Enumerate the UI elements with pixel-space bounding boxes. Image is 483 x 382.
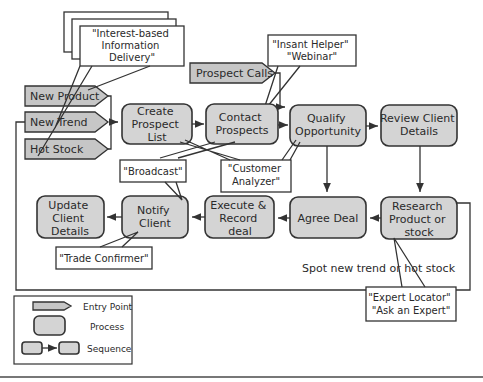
process-notify-client[interactable]: Notify Client — [122, 196, 188, 238]
svg-text:Agree Deal: Agree Deal — [298, 212, 359, 225]
svg-text:"Broadcast": "Broadcast" — [123, 166, 182, 177]
loop-label: Spot new trend or hot stock — [302, 262, 456, 275]
process-create-prospect-list[interactable]: Create Prospect List — [122, 104, 192, 144]
svg-text:Prospect Calls: Prospect Calls — [196, 67, 273, 80]
instant-helper-callout: "Insant Helper" "Webinar" — [265, 35, 356, 106]
svg-text:"Trade Confirmer": "Trade Confirmer" — [59, 253, 148, 264]
svg-text:Entry Point: Entry Point — [83, 302, 133, 312]
process-execute-record-deal[interactable]: Execute & Record deal — [205, 196, 274, 238]
entry-new-product[interactable]: New Product — [25, 86, 108, 106]
svg-text:Contact Prospects: Contact Prospects — [215, 111, 268, 137]
process-update-client-details[interactable]: Update Client Details — [37, 196, 104, 238]
process-review-client-details[interactable]: Review Client Details — [380, 105, 458, 146]
legend-sequence-icon — [22, 342, 42, 354]
legend-entry-icon — [33, 302, 71, 310]
process-qualify-opportunity[interactable]: Qualify Opportunity — [290, 105, 366, 146]
svg-text:Notify Client: Notify Client — [137, 204, 173, 230]
svg-text:Sequence: Sequence — [87, 344, 132, 354]
svg-text:Hot Stock: Hot Stock — [30, 143, 84, 156]
process-research-product[interactable]: Research Product or stock — [381, 197, 457, 239]
svg-text:Update Client Deta: Update Client Details — [48, 199, 91, 238]
entry-join-connector — [108, 96, 118, 149]
process-agree-deal[interactable]: Agree Deal — [290, 197, 366, 238]
legend: Entry Point Process Sequence — [14, 296, 133, 364]
broadcast-callout: "Broadcast" — [120, 142, 235, 200]
legend-process-icon — [34, 316, 65, 335]
svg-text:Process: Process — [90, 322, 124, 332]
expert-locator-callout: "Expert Locator" "Ask an Expert" — [366, 238, 456, 321]
entry-new-trend[interactable]: New Trend — [25, 112, 108, 132]
interest-based-callout: "Interest-based Information Delivery" — [64, 12, 184, 66]
svg-text:New Product: New Product — [30, 90, 100, 103]
process-contact-prospects[interactable]: Contact Prospects — [206, 104, 278, 144]
customer-analyzer-callout: "Customer Analyzer" — [180, 140, 300, 192]
flow-diagram: "Interest-based Information Delivery" Ne… — [0, 0, 483, 382]
entry-prospect-calls[interactable]: Prospect Calls — [190, 63, 275, 83]
entry-hot-stock[interactable]: Hot Stock — [25, 139, 108, 159]
